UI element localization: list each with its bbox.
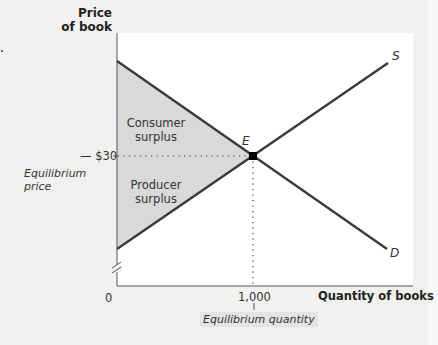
equilibrium-point	[249, 152, 257, 160]
consumer-surplus-line1: Consumer	[116, 116, 196, 130]
quantity-tick-label: 1,000	[238, 290, 271, 304]
consumer-surplus-line2: surplus	[116, 130, 196, 144]
equilibrium-price-label: Equilibrium price	[24, 167, 86, 193]
producer-surplus-line1: Producer	[116, 178, 196, 192]
equilibrium-quantity-label: Equilibrium quantity	[200, 312, 318, 327]
producer-surplus-line2: surplus	[116, 192, 196, 206]
producer-surplus-label: Producer surplus	[116, 178, 196, 206]
speck	[1, 50, 3, 52]
price-tick-label: — $30	[80, 149, 117, 163]
demand-label: D	[390, 246, 399, 260]
origin-label: 0	[105, 291, 112, 305]
y-axis-title-line1: Price	[60, 6, 112, 20]
y-axis-title: Price of book	[60, 6, 112, 34]
equilibrium-price-line1: Equilibrium	[24, 167, 86, 180]
y-axis-title-line2: of book	[60, 20, 112, 34]
consumer-surplus-label: Consumer surplus	[116, 116, 196, 144]
equilibrium-label: E	[242, 134, 250, 148]
supply-label: S	[392, 49, 400, 63]
x-axis-title: Quantity of books	[318, 289, 434, 303]
equilibrium-price-line2: price	[24, 180, 86, 193]
